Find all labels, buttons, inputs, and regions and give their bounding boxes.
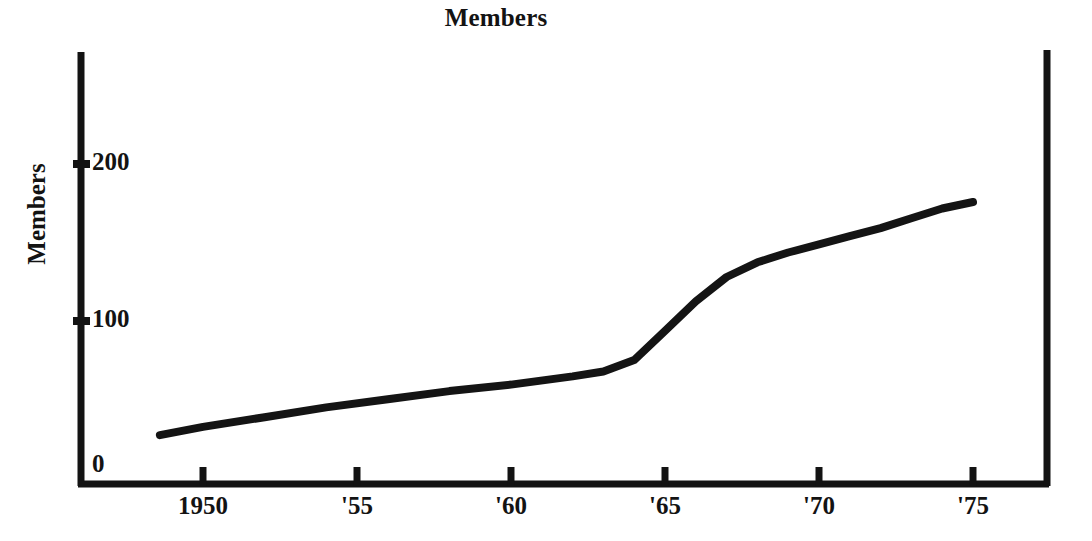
x-tick-label-60: '60 [495, 492, 527, 520]
x-tick-label-65: '65 [649, 492, 681, 520]
plot-area [0, 0, 1092, 541]
x-tick-label-70: '70 [803, 492, 835, 520]
x-tick-label-1950: 1950 [178, 492, 228, 520]
y-tick-label-0: 0 [92, 450, 105, 478]
y-tick-label-200: 200 [92, 148, 130, 176]
x-tick-label-55: '55 [341, 492, 373, 520]
x-tick-label-75: '75 [957, 492, 989, 520]
data-series-line [160, 202, 973, 435]
members-line-chart: Members Members 200 100 0 1950 '55 '60 '… [0, 0, 1092, 541]
y-tick-label-100: 100 [92, 305, 130, 333]
